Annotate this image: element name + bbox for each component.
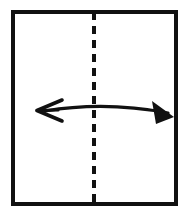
arrowhead-right-solid (152, 101, 174, 124)
fold-diagram-canvas (0, 0, 195, 216)
arrow-shaft (45, 106, 168, 113)
fold-diagram-svg (0, 0, 195, 216)
arrowhead-left-tip-accent (37, 110, 58, 111)
